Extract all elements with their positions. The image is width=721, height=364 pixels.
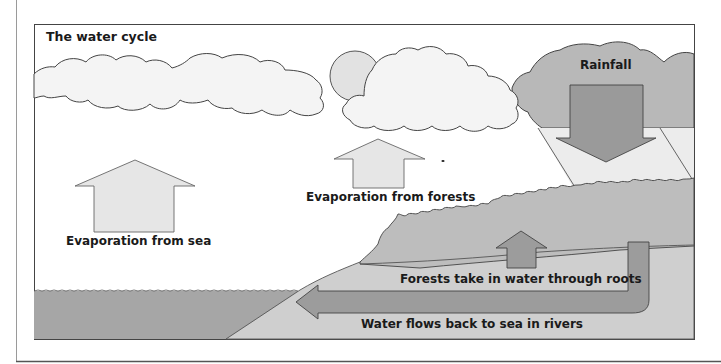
water-cycle-diagram: The water cycle Rainfall Evaporation fro… <box>0 0 721 364</box>
evaporation-sea-label: Evaporation from sea <box>66 234 211 248</box>
forests-roots-label: Forests take in water through roots <box>400 272 642 286</box>
rainfall-label: Rainfall <box>580 58 632 72</box>
diagram-title: The water cycle <box>46 29 157 44</box>
rivers-label: Water flows back to sea in rivers <box>361 317 583 331</box>
evaporation-forests-label: Evaporation from forests <box>306 190 475 204</box>
